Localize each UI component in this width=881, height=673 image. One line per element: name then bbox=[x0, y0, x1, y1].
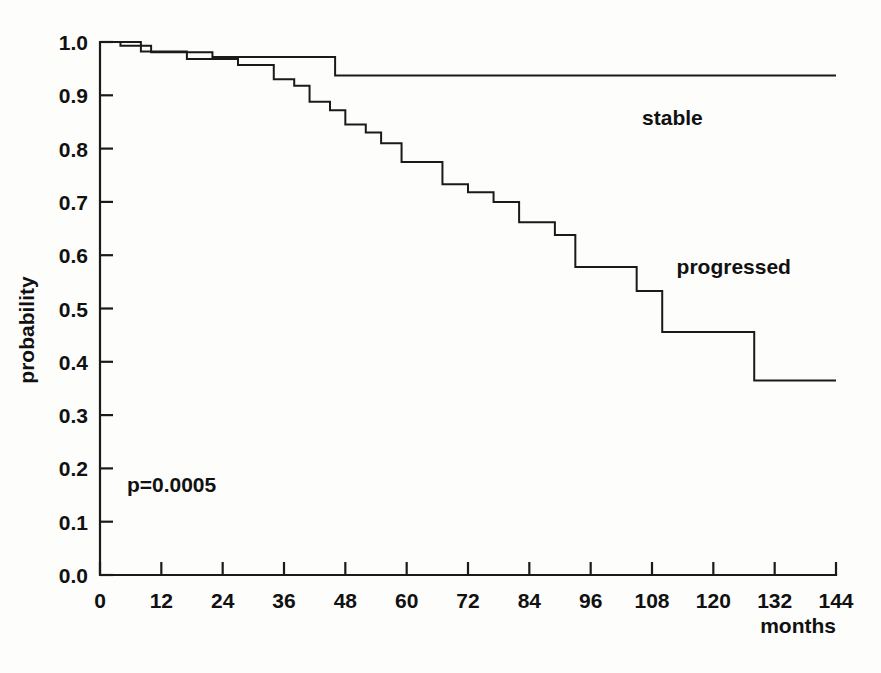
x-tick-label-0: 0 bbox=[94, 589, 106, 612]
kaplan-meier-chart: 0.00.10.20.30.40.50.60.70.80.91.0 012243… bbox=[0, 0, 881, 673]
x-axis-tick-labels: 01224364860728496108120132144 bbox=[94, 589, 854, 612]
figure-container: 0.00.10.20.30.40.50.60.70.80.91.0 012243… bbox=[0, 0, 881, 673]
y-tick-label-0.3: 0.3 bbox=[59, 404, 88, 427]
x-tick-label-48: 48 bbox=[334, 589, 358, 612]
y-tick-label-0.7: 0.7 bbox=[59, 191, 88, 214]
y-tick-label-0.4: 0.4 bbox=[59, 351, 89, 374]
y-tick-label-0.1: 0.1 bbox=[59, 511, 89, 534]
y-tick-label-0.0: 0.0 bbox=[59, 564, 88, 587]
series-group bbox=[100, 42, 836, 380]
x-tick-label-120: 120 bbox=[696, 589, 731, 612]
y-axis-ticks bbox=[100, 42, 113, 575]
stable-series-label: stable bbox=[642, 106, 703, 129]
p-value: p=0.0005 bbox=[127, 473, 217, 496]
series-curve-progressed bbox=[100, 42, 836, 380]
x-axis-title: months bbox=[760, 614, 836, 637]
x-tick-label-144: 144 bbox=[818, 589, 853, 612]
x-tick-label-36: 36 bbox=[272, 589, 295, 612]
x-tick-label-60: 60 bbox=[395, 589, 418, 612]
x-tick-label-108: 108 bbox=[634, 589, 669, 612]
x-tick-label-84: 84 bbox=[518, 589, 542, 612]
y-tick-label-0.2: 0.2 bbox=[59, 457, 88, 480]
y-tick-label-1.0: 1.0 bbox=[59, 31, 88, 54]
x-tick-label-132: 132 bbox=[757, 589, 792, 612]
y-tick-label-0.9: 0.9 bbox=[59, 84, 88, 107]
progressed-series-label: progressed bbox=[677, 255, 791, 278]
x-axis-ticks bbox=[100, 562, 836, 575]
y-tick-label-0.8: 0.8 bbox=[59, 138, 89, 161]
x-tick-label-24: 24 bbox=[211, 589, 235, 612]
x-tick-label-12: 12 bbox=[150, 589, 173, 612]
y-tick-label-0.5: 0.5 bbox=[59, 298, 89, 321]
page-caption bbox=[0, 647, 881, 673]
y-axis-title: probability bbox=[15, 276, 38, 384]
x-tick-label-96: 96 bbox=[579, 589, 602, 612]
annotation-group: p=0.0005stableprogressed bbox=[127, 106, 791, 497]
y-tick-label-0.6: 0.6 bbox=[59, 244, 88, 267]
y-axis-tick-labels: 0.00.10.20.30.40.50.60.70.80.91.0 bbox=[59, 31, 89, 587]
x-tick-label-72: 72 bbox=[456, 589, 479, 612]
